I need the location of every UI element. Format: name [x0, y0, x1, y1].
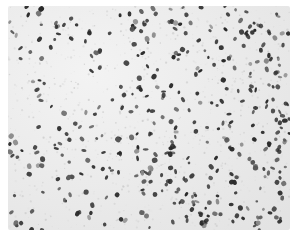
cell-nucleus	[210, 101, 214, 105]
cell-nucleus	[75, 23, 79, 26]
cell-nucleus	[88, 68, 94, 74]
cell-nucleus	[122, 59, 130, 67]
cell-nucleus	[154, 85, 160, 90]
cell-nucleus	[277, 63, 282, 67]
cell-nucleus	[185, 218, 189, 223]
cell-nucleus	[206, 184, 210, 189]
cell-nucleus	[117, 170, 120, 175]
nuclei-layer	[8, 6, 290, 230]
cell-nucleus	[207, 56, 210, 60]
cell-nucleus	[138, 8, 145, 15]
cell-nucleus	[57, 126, 62, 132]
cell-nucleus	[67, 137, 73, 143]
cell-nucleus	[27, 163, 32, 169]
cell-nucleus	[38, 55, 45, 62]
cell-nucleus	[141, 191, 147, 197]
cell-nucleus	[61, 22, 66, 28]
cell-nucleus	[254, 87, 257, 93]
cell-nucleus	[274, 179, 281, 186]
cell-nucleus	[254, 60, 260, 64]
cell-nucleus	[40, 228, 45, 230]
cell-nucleus	[178, 22, 183, 26]
cell-nucleus	[96, 104, 101, 110]
cell-nucleus	[134, 174, 139, 178]
cell-nucleus	[274, 130, 280, 136]
cell-nucleus	[8, 132, 15, 140]
cell-nucleus	[216, 127, 220, 130]
cell-nucleus	[34, 87, 41, 93]
cell-nucleus	[150, 73, 157, 81]
cell-nucleus	[237, 89, 240, 94]
cell-nucleus	[187, 161, 191, 165]
cell-nucleus	[195, 91, 200, 96]
cell-nucleus	[114, 191, 121, 198]
cell-nucleus	[278, 170, 282, 174]
cell-nucleus	[267, 211, 272, 215]
cell-nucleus	[128, 110, 133, 114]
cell-nucleus	[8, 20, 12, 25]
cell-nucleus	[274, 157, 281, 163]
cell-nucleus	[278, 76, 283, 79]
cell-nucleus	[118, 13, 121, 17]
cell-nucleus	[18, 220, 24, 226]
cell-nucleus	[233, 191, 237, 195]
cell-nucleus	[17, 45, 23, 51]
cell-nucleus	[206, 214, 210, 218]
cell-nucleus	[179, 46, 186, 53]
cell-nucleus	[114, 136, 122, 143]
cell-nucleus	[140, 50, 146, 55]
cell-nucleus	[24, 6, 30, 10]
cell-nucleus	[128, 134, 134, 141]
cell-nucleus	[29, 208, 35, 214]
cell-nucleus	[219, 45, 224, 50]
cell-nucleus	[81, 149, 87, 153]
cell-nucleus	[223, 27, 229, 33]
cell-nucleus	[18, 57, 23, 61]
cell-nucleus	[56, 32, 62, 35]
cell-nucleus	[31, 80, 36, 83]
cell-nucleus	[248, 62, 253, 67]
cell-nucleus	[38, 98, 44, 102]
cell-nucleus	[208, 28, 213, 32]
cell-nucleus	[274, 83, 281, 90]
cell-nucleus	[232, 36, 237, 41]
cell-nucleus	[221, 59, 226, 62]
cell-nucleus	[273, 215, 279, 220]
cell-nucleus	[57, 186, 62, 191]
cell-nucleus	[194, 72, 198, 77]
cell-nucleus	[234, 212, 240, 219]
cell-nucleus	[55, 176, 61, 181]
micrograph-frame	[0, 0, 299, 237]
cell-nucleus	[67, 160, 71, 164]
cell-nucleus	[231, 219, 236, 224]
cell-nucleus	[12, 193, 16, 197]
cell-nucleus	[53, 143, 57, 147]
cell-nucleus	[152, 192, 157, 197]
cell-nucleus	[253, 106, 258, 110]
cell-nucleus	[143, 148, 149, 150]
cell-nucleus	[232, 65, 237, 71]
cell-nucleus	[42, 81, 47, 85]
cell-nucleus	[10, 29, 16, 34]
cell-nucleus	[68, 36, 74, 42]
cell-nucleus	[136, 75, 142, 81]
cell-nucleus	[274, 137, 278, 141]
cell-nucleus	[26, 12, 31, 18]
cell-nucleus	[91, 164, 96, 169]
cell-nucleus	[140, 188, 145, 191]
cell-nucleus	[198, 100, 203, 105]
cell-nucleus	[261, 207, 265, 211]
cell-nucleus	[8, 210, 14, 216]
cell-nucleus	[244, 10, 249, 14]
cell-nucleus	[205, 126, 209, 130]
cell-nucleus	[68, 16, 74, 21]
cell-nucleus	[236, 151, 242, 157]
cell-nucleus	[176, 58, 180, 62]
cell-nucleus	[174, 135, 177, 140]
cell-nucleus	[118, 151, 122, 157]
cell-nucleus	[192, 120, 197, 125]
cell-nucleus	[100, 134, 104, 138]
cell-nucleus	[271, 97, 276, 102]
cell-nucleus	[136, 155, 140, 161]
cell-nucleus	[20, 149, 24, 153]
